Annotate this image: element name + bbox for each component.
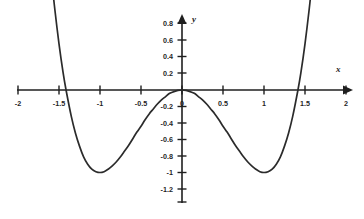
y-tick-label: -0.8 (161, 152, 173, 161)
y-tick-label: -1 (167, 168, 173, 177)
y-tick-label: -0.4 (161, 119, 173, 128)
x-tick-label: 1 (262, 99, 266, 108)
quartic-function-plot: -2 -1.5 -1 -0.5 0 0.5 1 1.5 2 0.8 0.6 0.… (0, 0, 364, 219)
x-tick-label: -1.5 (53, 99, 65, 108)
y-tick-label: 0.2 (163, 69, 173, 78)
x-tick-label: 2 (344, 99, 348, 108)
y-tick-label: -0.2 (161, 102, 173, 111)
y-tick-label: 0.6 (163, 36, 173, 45)
x-axis-label: x (335, 64, 341, 74)
y-tick-label: -0.6 (161, 135, 173, 144)
y-tick-label: 0.4 (163, 52, 173, 61)
x-tick-label-zero: 0 (180, 99, 184, 108)
x-tick-label: -0.5 (135, 99, 147, 108)
x-tick-label: 1.5 (300, 99, 310, 108)
x-tick-label: -2 (15, 99, 21, 108)
x-tick-label: 0.5 (218, 99, 228, 108)
y-tick-label: -1.2 (161, 185, 173, 194)
x-tick-label: -1 (97, 99, 103, 108)
y-tick-label: 0.8 (163, 19, 173, 28)
chart-container: -2 -1.5 -1 -0.5 0 0.5 1 1.5 2 0.8 0.6 0.… (0, 0, 364, 219)
